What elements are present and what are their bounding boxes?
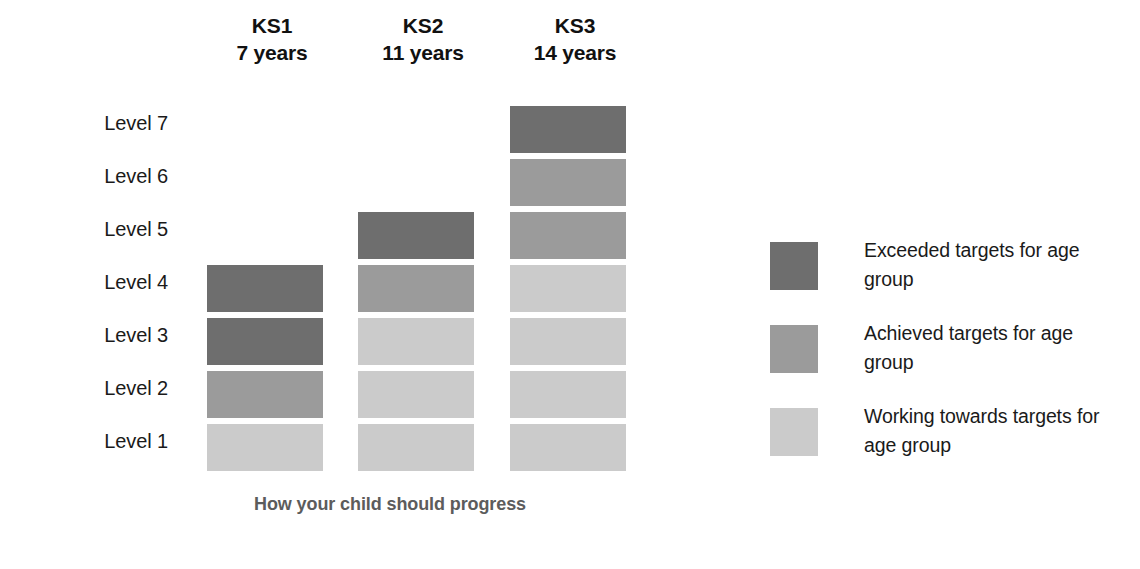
block-ks1-level-1 — [207, 424, 323, 471]
column-header-ks2-subtitle: 11 years — [358, 39, 488, 66]
level-label-6: Level 6 — [48, 165, 168, 187]
block-ks2-level-2 — [358, 371, 474, 418]
level-label-1: Level 1 — [48, 430, 168, 452]
chart-caption: How your child should progress — [200, 494, 580, 515]
block-ks1-level-3 — [207, 318, 323, 365]
block-ks3-level-2 — [510, 371, 626, 418]
block-ks2-level-5 — [358, 212, 474, 259]
legend-swatch-working-towards — [770, 408, 818, 456]
progress-chart: KS1 7 years KS2 11 years KS3 14 years Le… — [0, 0, 700, 569]
level-label-5: Level 5 — [48, 218, 168, 240]
column-header-ks3: KS3 14 years — [510, 12, 640, 66]
block-ks1-level-2 — [207, 371, 323, 418]
block-ks2-level-1 — [358, 424, 474, 471]
column-header-ks1-title: KS1 — [252, 14, 292, 37]
level-label-4: Level 4 — [48, 271, 168, 293]
legend-label-achieved: Achieved targets for age group — [864, 319, 1124, 377]
block-ks2-level-4 — [358, 265, 474, 312]
level-label-3: Level 3 — [48, 324, 168, 346]
legend-swatch-achieved — [770, 325, 818, 373]
block-ks1-level-4 — [207, 265, 323, 312]
block-ks3-level-7 — [510, 106, 626, 153]
legend-label-working-towards: Working towards targets for age group — [864, 402, 1124, 460]
block-ks3-level-6 — [510, 159, 626, 206]
block-ks3-level-4 — [510, 265, 626, 312]
block-ks3-level-3 — [510, 318, 626, 365]
block-ks2-level-3 — [358, 318, 474, 365]
column-header-ks3-title: KS3 — [555, 14, 595, 37]
legend-swatch-exceeded — [770, 242, 818, 290]
block-ks3-level-1 — [510, 424, 626, 471]
legend-label-exceeded: Exceeded targets for age group — [864, 236, 1124, 294]
block-ks3-level-5 — [510, 212, 626, 259]
column-header-ks2-title: KS2 — [403, 14, 443, 37]
column-header-ks2: KS2 11 years — [358, 12, 488, 66]
column-header-ks1-subtitle: 7 years — [207, 39, 337, 66]
level-label-7: Level 7 — [48, 112, 168, 134]
column-header-ks3-subtitle: 14 years — [510, 39, 640, 66]
level-label-2: Level 2 — [48, 377, 168, 399]
column-header-ks1: KS1 7 years — [207, 12, 337, 66]
